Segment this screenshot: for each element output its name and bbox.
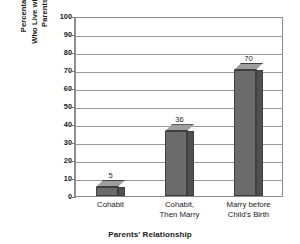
category-label-line: Marry before [209, 200, 289, 210]
y-axis-tickmark [69, 107, 75, 108]
y-axis-tickmark [69, 89, 75, 90]
bar-top-face [96, 180, 125, 187]
bar-value-label: 36 [166, 115, 194, 124]
x-axis-category-label: Marry beforeChild's Birth [209, 200, 289, 220]
y-axis-tickmark [69, 53, 75, 54]
y-axis-title-line-2: Who Live with Two Biological [30, 0, 41, 44]
bar-top-face [165, 124, 194, 131]
bar-front-face [234, 70, 256, 196]
x-axis-title: Parents' Relationship [0, 230, 300, 239]
bar-value-label: 5 [97, 171, 125, 180]
category-label-line: Child's Birth [209, 210, 289, 220]
x-axis-category-label: Cohabit [71, 200, 151, 210]
bar-side-face [118, 187, 125, 196]
bar-top-face [234, 63, 263, 70]
x-axis-category-labels: CohabitCohabit,Then MarryMarry beforeChi… [76, 200, 283, 228]
y-axis-tickmark [69, 125, 75, 126]
bar-side-face [256, 70, 263, 196]
y-axis-tickmark [69, 143, 75, 144]
bar-front-face [96, 187, 118, 196]
category-label-line: Cohabit [71, 200, 151, 210]
y-axis-tickmark [69, 35, 75, 36]
y-axis-tickmark [69, 17, 75, 18]
category-label-line: Then Marry [140, 210, 220, 220]
gridline [76, 36, 282, 37]
category-label-line: Cohabit, [140, 200, 220, 210]
bar [234, 63, 263, 196]
y-axis-tickmark [69, 71, 75, 72]
y-axis-tickmark [69, 179, 75, 180]
y-axis-tickmark [69, 161, 75, 162]
y-axis-tickmark [69, 197, 75, 198]
x-axis-category-label: Cohabit,Then Marry [140, 200, 220, 220]
bar-front-face [165, 131, 187, 196]
bar [165, 124, 194, 196]
y-axis-title-line-1: Percentage of Children [19, 0, 30, 32]
bar-value-label: 70 [235, 54, 263, 63]
bar-chart: Percentage of Children Who Live with Two… [0, 0, 300, 244]
bar [96, 180, 125, 196]
plot-area: 53670 [76, 17, 283, 197]
bar-side-face [187, 131, 194, 196]
